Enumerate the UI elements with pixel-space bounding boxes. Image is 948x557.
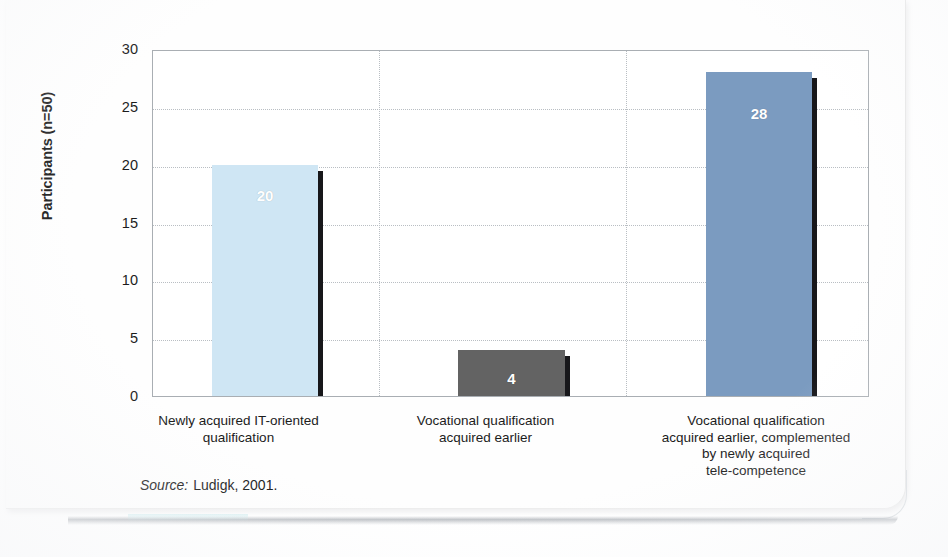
bar-shadow [318,171,323,396]
bar-shadow [565,356,570,396]
category-label-3-line-3: by newly acquired [628,446,884,463]
bar-value-label-2: 4 [458,370,565,387]
bar-shadow [812,78,817,396]
category-separator-2 [626,51,627,396]
page-edge-shadow [68,516,898,525]
category-label-2-line-1: Vocational qualification [398,413,573,430]
category-separator-1 [379,51,380,396]
y-axis-title: Participants (n=50) [39,46,55,266]
source-note: Source:Ludigk, 2001. [140,477,277,493]
y-tick-20: 20 [86,157,138,173]
y-tick-5: 5 [86,330,138,346]
y-tick-25: 25 [86,99,138,115]
category-label-2: Vocational qualification acquired earlie… [398,413,573,446]
bar-vocational-qualification-acquired-earlier[interactable]: 4 [458,350,565,396]
category-label-2-line-2: acquired earlier [398,430,573,447]
bar-vocational-qualification-complemented-tele-competence[interactable]: 28 [706,72,812,396]
category-label-3-line-1: Vocational qualification [628,413,884,430]
y-tick-10: 10 [86,272,138,288]
source-text: Ludigk, 2001. [193,477,277,493]
bar-value-label-1: 20 [212,187,318,204]
category-label-1: Newly acquired IT-oriented qualification [146,413,331,446]
category-label-3-line-2: acquired earlier, complemented [628,430,884,447]
bar-chart: Participants (n=50) 30 25 20 15 10 5 0 2… [0,0,948,508]
category-label-3-line-4: tele-competence [628,463,884,480]
bar-value-label-3: 28 [706,105,812,122]
y-tick-15: 15 [86,215,138,231]
y-tick-30: 30 [86,41,138,57]
plot-area: 20 4 28 [152,50,869,397]
source-label: Source: [140,477,188,493]
bar-newly-acquired-it-oriented-qualification[interactable]: 20 [212,165,318,396]
category-label-3: Vocational qualification acquired earlie… [628,413,884,479]
y-tick-0: 0 [86,388,138,404]
category-label-1-line-2: qualification [146,430,331,447]
y-axis-tick-labels: 30 25 20 15 10 5 0 [86,50,138,397]
category-label-1-line-1: Newly acquired IT-oriented [146,413,331,430]
